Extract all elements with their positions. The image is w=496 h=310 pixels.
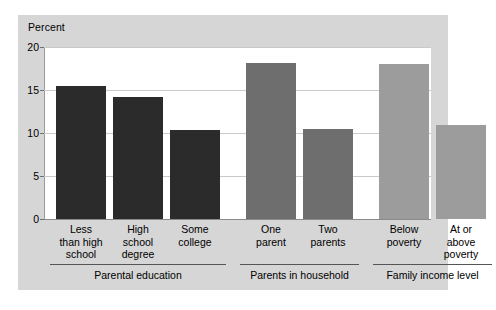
- bar: [113, 97, 163, 219]
- bar: [56, 86, 106, 219]
- gridline-0: [44, 219, 431, 220]
- group-rule: [240, 264, 359, 265]
- y-tick-mark-20: [40, 47, 44, 48]
- y-tick-mark-15: [40, 90, 44, 91]
- group-label: Parents in household: [240, 269, 359, 281]
- group-label: Family income level: [373, 269, 492, 281]
- group-rule: [373, 264, 492, 265]
- plot-area: 05101520: [44, 47, 431, 219]
- category-label: Some college: [151, 223, 239, 248]
- bar: [170, 130, 220, 219]
- y-axis-title: Percent: [28, 21, 65, 33]
- y-tick-mark-5: [40, 176, 44, 177]
- bar: [246, 63, 296, 219]
- category-label: Two parents: [284, 223, 372, 248]
- group-label: Parental education: [50, 269, 226, 281]
- category-label: At or above poverty: [417, 223, 496, 261]
- bar: [436, 125, 486, 219]
- group-rule: [50, 264, 226, 265]
- y-tick-label-10: 10: [27, 127, 39, 139]
- y-tick-mark-10: [40, 133, 44, 134]
- y-tick-mark-0: [40, 219, 44, 220]
- bar: [303, 129, 353, 219]
- y-tick-label-20: 20: [27, 41, 39, 53]
- bar: [379, 64, 429, 219]
- gridline-20: [44, 47, 431, 48]
- y-tick-label-5: 5: [33, 170, 39, 182]
- chart-figure: Percent 05101520 Less than high schoolHi…: [18, 15, 448, 290]
- y-tick-label-15: 15: [27, 84, 39, 96]
